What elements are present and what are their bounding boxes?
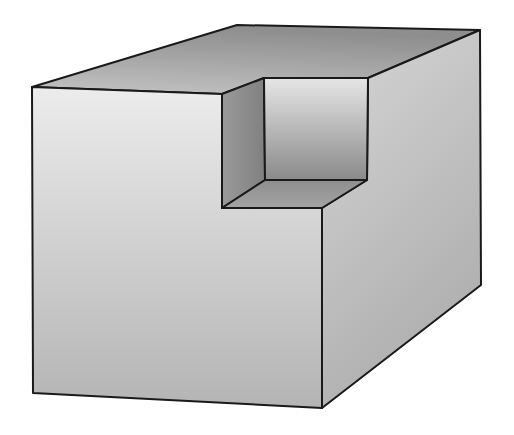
notched-block-drawing — [0, 0, 514, 435]
notched-block-figure — [0, 0, 514, 435]
notch-back-wall — [264, 78, 368, 180]
